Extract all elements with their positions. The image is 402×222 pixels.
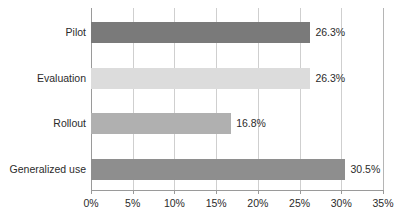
bar[interactable] — [91, 113, 231, 134]
x-tick-35pct — [383, 190, 384, 194]
x-tick-label: 30% — [321, 196, 361, 210]
x-tick-label: 35% — [363, 196, 402, 210]
gridline-35pct — [383, 8, 384, 190]
x-tick-5pct — [133, 190, 134, 194]
data-value-label: 16.8% — [236, 113, 266, 134]
x-tick-0pct — [91, 190, 92, 194]
data-value-label: 30.5% — [350, 159, 380, 180]
bar[interactable] — [91, 68, 310, 89]
bar[interactable] — [91, 22, 310, 43]
x-tick-30pct — [341, 190, 342, 194]
category-label: Rollout — [53, 113, 86, 134]
x-axis-line — [91, 190, 384, 191]
x-tick-10pct — [174, 190, 175, 194]
x-tick-15pct — [216, 190, 217, 194]
category-label: Pilot — [66, 22, 86, 43]
x-tick-25pct — [300, 190, 301, 194]
x-tick-label: 20% — [238, 196, 278, 210]
bar-chart: 0%5%10%15%20%25%30%35% PilotEvaluationRo… — [0, 0, 402, 222]
x-tick-20pct — [258, 190, 259, 194]
category-label: Generalized use — [10, 159, 86, 180]
data-value-label: 26.3% — [315, 68, 345, 89]
x-tick-label: 5% — [113, 196, 153, 210]
data-value-label: 26.3% — [315, 22, 345, 43]
x-tick-label: 15% — [196, 196, 236, 210]
x-tick-label: 25% — [280, 196, 320, 210]
bar[interactable] — [91, 159, 345, 180]
x-tick-label: 10% — [154, 196, 194, 210]
category-label: Evaluation — [37, 68, 86, 89]
x-tick-label: 0% — [71, 196, 111, 210]
